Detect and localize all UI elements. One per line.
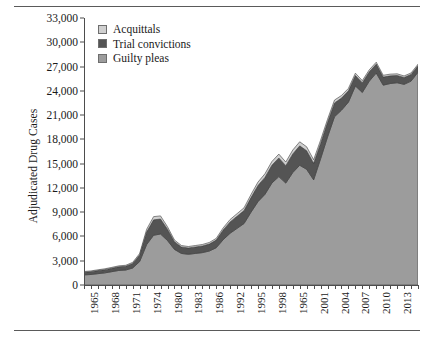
- y-tick-mark: [80, 42, 84, 43]
- x-tick-label: 2004: [339, 292, 351, 314]
- legend-item: Guilty pleas: [98, 51, 191, 66]
- x-tick-label: 1974: [151, 292, 163, 314]
- top-rule: [14, 6, 420, 7]
- x-tick-mark: [91, 285, 92, 289]
- x-tick-mark: [307, 285, 308, 289]
- x-tick-mark: [161, 285, 162, 289]
- x-tick-mark: [376, 285, 377, 289]
- x-tick-mark: [230, 285, 231, 289]
- legend-item: Acquittals: [98, 22, 191, 37]
- chart-legend: AcquittalsTrial convictionsGuilty pleas: [98, 22, 191, 66]
- x-tick-mark: [223, 285, 224, 289]
- x-tick-label: 2010: [380, 292, 392, 314]
- figure: Adjudicated Drug Cases 03,0006,0009,0001…: [0, 0, 431, 341]
- y-tick-label: 12,000: [46, 182, 84, 194]
- legend-swatch-icon: [98, 54, 107, 63]
- y-axis-line: [84, 18, 85, 285]
- x-tick-mark: [383, 285, 384, 289]
- x-tick-mark: [286, 285, 287, 289]
- x-tick-mark: [362, 285, 363, 289]
- x-tick-label: 1983: [192, 292, 204, 314]
- x-tick-mark: [112, 285, 113, 289]
- x-tick-label: 1995: [255, 292, 267, 314]
- x-tick-mark: [335, 285, 336, 289]
- y-tick-label: 15,000: [46, 158, 84, 170]
- x-tick-mark: [84, 285, 85, 289]
- y-tick-label: 33,000: [46, 12, 84, 24]
- x-tick-mark: [209, 285, 210, 289]
- y-tick-label: 24,000: [46, 85, 84, 97]
- x-tick-mark: [105, 285, 106, 289]
- x-tick-mark: [237, 285, 238, 289]
- x-tick-label: 2007: [359, 292, 371, 314]
- x-tick-mark: [126, 285, 127, 289]
- x-tick-mark: [279, 285, 280, 289]
- y-tick-label: 30,000: [46, 36, 84, 48]
- y-tick-mark: [80, 90, 84, 91]
- x-tick-label: 1998: [276, 292, 288, 314]
- x-tick-mark: [244, 285, 245, 289]
- legend-item-label: Acquittals: [113, 22, 160, 37]
- x-tick-mark: [133, 285, 134, 289]
- x-tick-mark: [154, 285, 155, 289]
- x-tick-mark: [404, 285, 405, 289]
- y-tick-mark: [80, 236, 84, 237]
- x-tick-mark: [140, 285, 141, 289]
- x-tick-mark: [202, 285, 203, 289]
- x-tick-mark: [216, 285, 217, 289]
- x-tick-mark: [188, 285, 189, 289]
- series-area-guilty-pleas: [84, 72, 418, 285]
- y-tick-label: 18,000: [46, 133, 84, 145]
- x-tick-label: 1971: [130, 292, 142, 314]
- x-tick-label: 1965: [88, 292, 100, 314]
- x-tick-mark: [300, 285, 301, 289]
- y-tick-mark: [80, 212, 84, 213]
- x-tick-mark: [258, 285, 259, 289]
- x-tick-mark: [98, 285, 99, 289]
- x-tick-mark: [314, 285, 315, 289]
- y-tick-mark: [80, 187, 84, 188]
- y-tick-mark: [80, 139, 84, 140]
- legend-swatch-icon: [98, 25, 107, 34]
- x-tick-mark: [348, 285, 349, 289]
- y-tick-label: 27,000: [46, 61, 84, 73]
- x-tick-mark: [341, 285, 342, 289]
- x-tick-label: 2013: [401, 292, 413, 314]
- x-tick-label: 1968: [109, 292, 121, 314]
- y-tick-mark: [80, 260, 84, 261]
- x-tick-mark: [369, 285, 370, 289]
- x-tick-label: 2001: [318, 292, 330, 314]
- x-tick-label: 1980: [172, 292, 184, 314]
- x-tick-mark: [397, 285, 398, 289]
- x-tick-mark: [181, 285, 182, 289]
- x-tick-mark: [411, 285, 412, 289]
- x-tick-label: 1986: [213, 292, 225, 314]
- x-tick-mark: [293, 285, 294, 289]
- legend-item-label: Guilty pleas: [113, 51, 169, 66]
- x-tick-mark: [174, 285, 175, 289]
- bottom-rule: [14, 330, 420, 331]
- x-tick-mark: [321, 285, 322, 289]
- x-tick-mark: [119, 285, 120, 289]
- x-tick-mark: [195, 285, 196, 289]
- x-tick-mark: [272, 285, 273, 289]
- legend-item-label: Trial convictions: [113, 37, 191, 52]
- x-tick-mark: [355, 285, 356, 289]
- x-tick-mark: [328, 285, 329, 289]
- y-tick-mark: [80, 66, 84, 67]
- legend-swatch-icon: [98, 39, 107, 48]
- x-tick-mark: [147, 285, 148, 289]
- x-tick-mark: [390, 285, 391, 289]
- y-axis-title: Adjudicated Drug Cases: [27, 71, 39, 261]
- y-tick-mark: [80, 115, 84, 116]
- y-tick-label: 21,000: [46, 109, 84, 121]
- x-tick-label: 1965: [297, 292, 309, 314]
- x-tick-mark: [265, 285, 266, 289]
- y-tick-mark: [80, 18, 84, 19]
- x-tick-mark: [168, 285, 169, 289]
- legend-item: Trial convictions: [98, 37, 191, 52]
- x-tick-mark: [418, 285, 419, 289]
- x-tick-label: 1992: [234, 292, 246, 314]
- x-tick-mark: [251, 285, 252, 289]
- y-tick-mark: [80, 163, 84, 164]
